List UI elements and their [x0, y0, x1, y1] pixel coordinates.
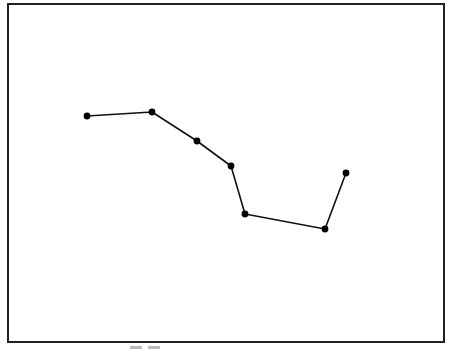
data-point-marker: [149, 109, 156, 116]
figure-caption-cropped: [130, 346, 350, 353]
figure: [0, 0, 455, 353]
data-markers: [84, 109, 350, 233]
data-line: [87, 112, 346, 229]
plot-frame: [8, 4, 444, 342]
data-point-marker: [343, 170, 350, 177]
data-point-marker: [194, 138, 201, 145]
data-point-marker: [322, 226, 329, 233]
data-point-marker: [228, 163, 235, 170]
data-point-marker: [84, 113, 91, 120]
data-point-marker: [242, 211, 249, 218]
line-plot: [0, 0, 455, 353]
